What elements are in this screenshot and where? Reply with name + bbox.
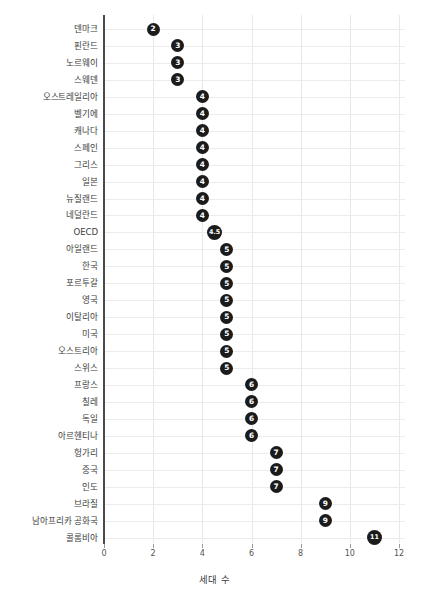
data-point-marker: 4	[196, 158, 209, 171]
gridline-horizontal	[104, 487, 405, 488]
gridline-vertical	[301, 15, 302, 543]
data-point-marker: 5	[220, 243, 233, 256]
y-axis-label: 브라질	[0, 499, 98, 509]
data-point-marker: 4	[196, 141, 209, 154]
x-axis-tick-label: 8	[286, 549, 316, 558]
y-axis-label: 스웨덴	[0, 75, 98, 85]
gridline-horizontal	[104, 199, 405, 200]
gridline-horizontal	[104, 317, 405, 318]
data-point-marker: 4	[196, 209, 209, 222]
plot-area: 2333444444444.55555555566667779911	[104, 15, 405, 543]
y-axis-label: 네덜란드	[0, 210, 98, 220]
y-axis-label: 스위스	[0, 363, 98, 373]
x-axis-tick-label: 4	[187, 549, 217, 558]
x-axis-tick-label: 0	[89, 549, 119, 558]
y-axis-label: 영국	[0, 295, 98, 305]
data-point-marker: 4	[196, 124, 209, 137]
data-point-marker: 5	[220, 311, 233, 324]
gridline-horizontal	[104, 46, 405, 47]
data-point-marker: 5	[220, 345, 233, 358]
data-point-marker: 4	[196, 192, 209, 205]
data-point-marker: 3	[171, 73, 184, 86]
gridline-horizontal	[104, 97, 405, 98]
y-axis-label: 오스트리아	[0, 346, 98, 356]
gridline-horizontal	[104, 215, 405, 216]
gridline-horizontal	[104, 453, 405, 454]
gridline-horizontal	[104, 334, 405, 335]
gridline-horizontal	[104, 148, 405, 149]
y-axis-label: 스페인	[0, 143, 98, 153]
data-point-marker: 11	[367, 530, 382, 545]
y-axis-label: 헝가리	[0, 448, 98, 458]
data-point-marker: 6	[245, 378, 258, 391]
data-point-marker: 4	[196, 175, 209, 188]
gridline-vertical	[153, 15, 154, 543]
y-axis-label: 오스트레일리아	[0, 92, 98, 102]
x-axis-title: 세대 수	[0, 572, 429, 586]
data-point-marker: 7	[270, 446, 283, 459]
gridline-horizontal	[104, 182, 405, 183]
gridline-horizontal	[104, 283, 405, 284]
y-axis-label: 아일랜드	[0, 244, 98, 254]
y-axis-label: 콜롬비아	[0, 533, 98, 543]
y-axis-label: 중국	[0, 465, 98, 475]
x-axis-tick	[153, 544, 154, 548]
x-axis-tick	[202, 544, 203, 548]
y-axis-label: 캐나다	[0, 126, 98, 136]
y-axis-label: 그리스	[0, 160, 98, 170]
x-axis-tick-label: 12	[384, 549, 414, 558]
y-axis-label: 남아프리카 공화국	[0, 516, 98, 526]
gridline-horizontal	[104, 351, 405, 352]
y-axis-label: 아르헨티나	[0, 431, 98, 441]
data-point-marker: 9	[319, 514, 332, 527]
gridline-horizontal	[104, 266, 405, 267]
data-point-marker: 6	[245, 429, 258, 442]
data-point-marker: 4	[196, 107, 209, 120]
y-axis-spine	[103, 15, 105, 544]
y-axis-label: 벨기에	[0, 109, 98, 119]
gridline-horizontal	[104, 504, 405, 505]
data-point-marker: 6	[245, 412, 258, 425]
y-axis-label: 포르투갈	[0, 278, 98, 288]
y-axis-label: 독일	[0, 414, 98, 424]
gridline-horizontal	[104, 300, 405, 301]
x-axis-tick	[399, 544, 400, 548]
data-point-marker: 2	[147, 23, 160, 36]
data-point-marker: 4.5	[207, 225, 222, 240]
y-axis-label: 미국	[0, 329, 98, 339]
y-axis-category-labels: 덴마크핀란드노르웨이스웨덴오스트레일리아벨기에캐나다스페인그리스일본뉴질랜드네덜…	[0, 0, 98, 607]
x-axis-tick-label: 6	[237, 549, 267, 558]
y-axis-label: 뉴질랜드	[0, 194, 98, 204]
data-point-marker: 3	[171, 56, 184, 69]
gridline-horizontal	[104, 232, 405, 233]
gridline-vertical	[399, 15, 400, 543]
y-axis-label: 칠레	[0, 397, 98, 407]
data-point-marker: 9	[319, 497, 332, 510]
gridline-horizontal	[104, 368, 405, 369]
data-point-marker: 6	[245, 395, 258, 408]
data-point-marker: 5	[220, 260, 233, 273]
data-point-marker: 3	[171, 39, 184, 52]
data-point-marker: 5	[220, 328, 233, 341]
x-axis-tick	[350, 544, 351, 548]
y-axis-label: 한국	[0, 261, 98, 271]
gridline-horizontal	[104, 249, 405, 250]
x-axis-tick-label: 2	[138, 549, 168, 558]
gridline-horizontal	[104, 114, 405, 115]
gridline-horizontal	[104, 165, 405, 166]
y-axis-label: OECD	[0, 227, 98, 237]
data-point-marker: 5	[220, 277, 233, 290]
gridline-horizontal	[104, 63, 405, 64]
y-axis-label: 덴마크	[0, 24, 98, 34]
data-point-marker: 7	[270, 463, 283, 476]
y-axis-label: 인도	[0, 482, 98, 492]
y-axis-label: 노르웨이	[0, 58, 98, 68]
gridline-vertical	[252, 15, 253, 543]
y-axis-label: 프랑스	[0, 380, 98, 390]
generations-dot-chart: 2333444444444.55555555566667779911 덴마크핀란…	[0, 0, 429, 607]
data-point-marker: 7	[270, 480, 283, 493]
x-axis-tick	[104, 544, 105, 548]
x-axis-tick	[252, 544, 253, 548]
gridline-horizontal	[104, 538, 405, 539]
data-point-marker: 5	[220, 362, 233, 375]
